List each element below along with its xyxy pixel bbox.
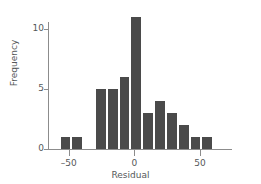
histogram-bar xyxy=(190,137,202,149)
x-axis-title: Residual xyxy=(0,170,261,180)
histogram-bar xyxy=(178,125,190,149)
x-axis-line xyxy=(44,149,232,150)
x-axis-tick-label: 0 xyxy=(119,158,149,168)
histogram-bar xyxy=(142,113,154,149)
x-axis-tick-label: 50 xyxy=(185,158,215,168)
histogram-bar xyxy=(71,137,83,149)
x-axis-tick-label: –50 xyxy=(54,158,84,168)
histogram-bar xyxy=(154,101,166,149)
y-axis-tick xyxy=(44,29,49,30)
histogram-bar xyxy=(60,137,72,149)
x-axis-tick xyxy=(200,150,201,156)
plot-area xyxy=(53,10,225,149)
histogram-chart: Frequency 0510 –50050 Residual xyxy=(0,0,261,184)
histogram-bar xyxy=(166,113,178,149)
y-axis-tick xyxy=(44,89,49,90)
histogram-bar xyxy=(201,137,213,149)
y-axis-tick-label: 0 xyxy=(28,144,44,153)
y-axis-tick-label: 10 xyxy=(28,24,44,33)
histogram-bar xyxy=(130,17,142,149)
histogram-bar xyxy=(119,77,131,149)
x-axis-tick xyxy=(69,150,70,156)
histogram-bar xyxy=(95,89,107,149)
x-axis-tick xyxy=(134,150,135,156)
histogram-bar xyxy=(107,89,119,149)
y-axis-line xyxy=(48,22,49,149)
y-axis-tick xyxy=(44,149,49,150)
y-axis-tick-label: 5 xyxy=(28,84,44,93)
